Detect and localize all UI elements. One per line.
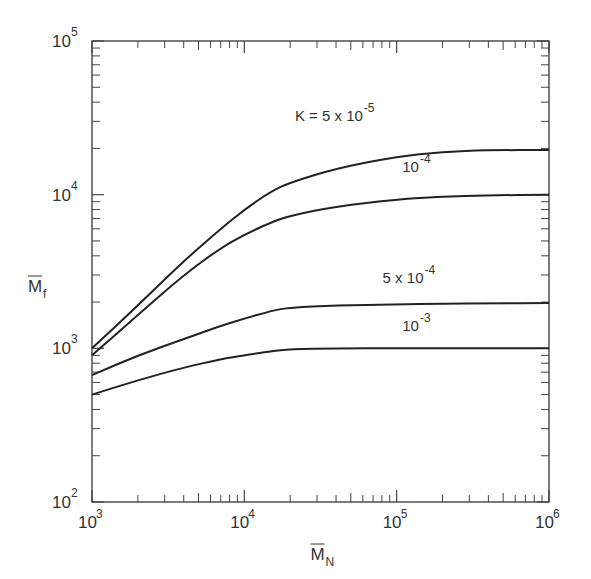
y-tick-label: 10 xyxy=(52,339,71,358)
chart-figure: 103104105106102103104105K = 5 x 10-510-4… xyxy=(0,0,591,579)
series-label: K = 5 x 10 xyxy=(295,107,363,124)
series-label: 10 xyxy=(402,158,419,175)
series-label-exponent: -3 xyxy=(420,311,431,325)
x-tick-label: 10 xyxy=(230,513,249,532)
series-line-3 xyxy=(92,348,549,394)
y-tick-label: 10 xyxy=(52,186,71,205)
y-axis-title: M xyxy=(28,277,42,296)
x-axis-title-subscript: N xyxy=(326,555,335,569)
y-tick-exponent: 4 xyxy=(71,179,78,193)
y-tick-label: 10 xyxy=(52,493,71,512)
x-tick-exponent: 4 xyxy=(248,507,255,521)
x-tick-label: 10 xyxy=(383,513,402,532)
log-log-line-chart: 103104105106102103104105K = 5 x 10-510-4… xyxy=(0,0,591,579)
series-line-2 xyxy=(92,303,549,375)
x-tick-label: 10 xyxy=(535,513,554,532)
x-tick-exponent: 6 xyxy=(553,507,560,521)
series-label: 5 x 10 xyxy=(383,269,424,286)
series-label-exponent: -4 xyxy=(424,263,435,277)
series-label: 10 xyxy=(402,317,419,334)
y-tick-label: 10 xyxy=(52,32,71,51)
y-tick-exponent: 5 xyxy=(71,25,78,39)
series-label-exponent: -5 xyxy=(364,101,375,115)
series-line-0 xyxy=(92,150,549,348)
x-tick-label: 10 xyxy=(78,513,97,532)
x-tick-exponent: 3 xyxy=(96,507,103,521)
y-tick-exponent: 3 xyxy=(71,332,78,346)
y-axis-title-subscript: f xyxy=(43,287,47,301)
x-axis-title: M xyxy=(311,545,325,564)
x-tick-exponent: 5 xyxy=(401,507,408,521)
y-tick-exponent: 2 xyxy=(71,486,78,500)
series-line-1 xyxy=(92,195,549,356)
series-label-exponent: -4 xyxy=(420,152,431,166)
